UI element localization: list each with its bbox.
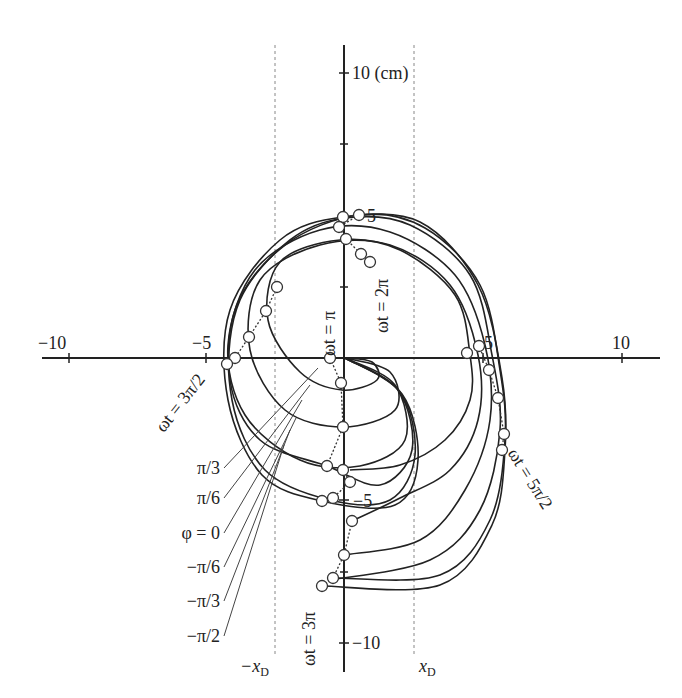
y-tick-label-5: 5	[367, 207, 376, 225]
time-marker	[499, 429, 510, 440]
trajectory-curve	[267, 239, 473, 470]
time-label-pi: ωt = π	[320, 311, 338, 356]
time-marker	[347, 516, 358, 527]
time-marker	[244, 332, 255, 343]
y-tick-label-10: 10 (cm)	[352, 64, 408, 82]
plus-xd-text: x	[419, 656, 427, 676]
phase-label-pi3: π/3	[197, 459, 220, 477]
trajectory-curves	[224, 214, 506, 590]
time-marker	[354, 210, 365, 221]
x-tick-label-minus5: −5	[192, 334, 211, 352]
time-label-3pi: ωt = 3π	[300, 612, 318, 666]
leader-pi6	[224, 385, 310, 498]
time-marker	[334, 222, 345, 233]
time-marker	[339, 550, 350, 561]
time-marker	[317, 581, 328, 592]
time-marker	[222, 359, 233, 370]
trajectory-curve	[248, 240, 481, 521]
x-tick-label-10: 10	[612, 334, 630, 352]
x-tick-label-minus10: −10	[38, 334, 66, 352]
time-marker	[328, 493, 339, 504]
time-marker	[338, 422, 349, 433]
phase-label-mpi2: −π/2	[187, 627, 220, 645]
time-marker	[484, 365, 495, 376]
time-marker	[365, 257, 376, 268]
time-marker	[493, 393, 504, 404]
plus-xd-sub: D	[427, 665, 436, 679]
plus-xd-label: xD	[419, 657, 436, 678]
time-marker	[338, 212, 349, 223]
time-marker	[317, 496, 328, 507]
minus-xd-text: −x	[240, 656, 260, 676]
time-marker	[261, 306, 272, 317]
plot-area	[0, 0, 682, 698]
x-tick-label-5: 5	[484, 334, 493, 352]
time-marker	[474, 341, 485, 352]
phase-label-mpi3: −π/3	[187, 592, 220, 610]
leader-mpi2	[224, 445, 284, 636]
diagram: −10 −5 5 10 10 (cm) 5 −5 −10 −xD xD π/3 …	[0, 0, 682, 698]
minus-xd-sub: D	[260, 665, 269, 679]
trajectory-curve	[229, 217, 501, 580]
time-marker	[462, 348, 473, 359]
time-marker	[322, 461, 333, 472]
phase-label-mpi6: −π/6	[187, 558, 220, 576]
phase-label-phi0: φ = 0	[181, 524, 220, 542]
time-marker	[272, 282, 283, 293]
time-marker	[345, 477, 356, 488]
time-marker	[341, 234, 352, 245]
time-marker	[338, 465, 349, 476]
time-label-2pi: ωt = 2π	[373, 279, 391, 333]
time-marker	[328, 573, 339, 584]
y-tick-label-minus10: −10	[352, 634, 380, 652]
time-marker	[356, 249, 367, 260]
y-tick-label-minus5: −5	[353, 492, 372, 510]
phase-label-pi6: π/6	[197, 489, 220, 507]
time-marker	[336, 378, 347, 389]
minus-xd-label: −xD	[240, 657, 269, 678]
